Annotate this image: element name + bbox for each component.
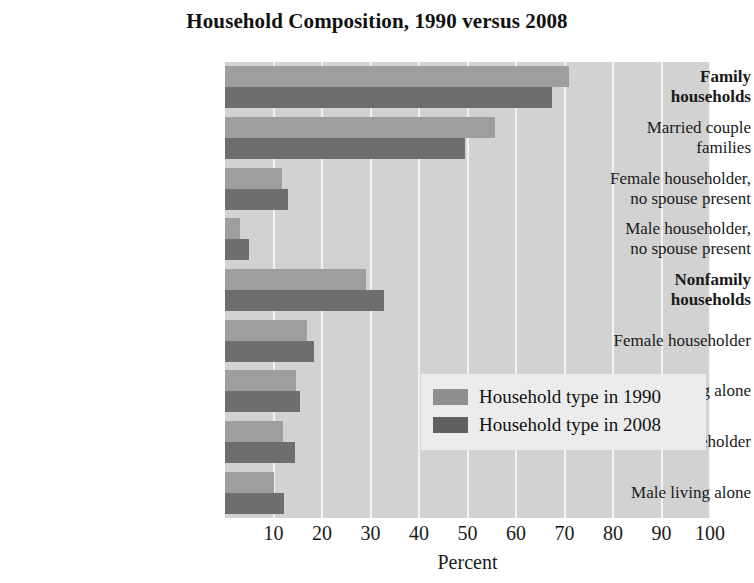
bar-1990-3 <box>225 218 240 239</box>
bar-1990-6 <box>225 370 296 391</box>
category-label-line: Female householder, <box>532 169 751 189</box>
chart-title: Household Composition, 1990 versus 2008 <box>0 9 754 34</box>
x-tick-label-60: 60 <box>506 522 526 545</box>
category-label-line: Male householder, <box>532 219 751 239</box>
category-label-5: Female householder <box>532 331 754 351</box>
x-tick-label-10: 10 <box>264 522 284 545</box>
x-tick-label-70: 70 <box>555 522 575 545</box>
category-label-8: Male living alone <box>532 483 754 503</box>
bar-2008-4 <box>225 290 384 311</box>
bar-2008-3 <box>225 239 249 260</box>
legend-label-1: Household type in 2008 <box>479 414 661 436</box>
x-tick-label-90: 90 <box>652 522 672 545</box>
bar-1990-7 <box>225 421 283 442</box>
bar-1990-5 <box>225 320 307 341</box>
x-tick-label-20: 20 <box>312 522 332 545</box>
bar-2008-0 <box>225 87 552 108</box>
bar-1990-1 <box>225 117 495 138</box>
category-label-line: Nonfamily <box>532 270 751 290</box>
x-tick-label-80: 80 <box>603 522 623 545</box>
legend-label-0: Household type in 1990 <box>479 386 661 408</box>
category-label-1: Married couplefamilies <box>532 118 754 158</box>
category-label-line: households <box>532 290 751 310</box>
category-label-3: Male householder,no spouse present <box>532 219 754 259</box>
category-label-line: Family <box>532 67 751 87</box>
bar-1990-0 <box>225 66 569 87</box>
household-composition-chart: Household Composition, 1990 versus 2008 … <box>0 0 754 583</box>
legend-swatch-0 <box>433 389 468 405</box>
legend-item-0: Household type in 1990 <box>433 383 706 411</box>
category-label-0: Familyhouseholds <box>532 67 754 107</box>
category-label-line: Married couple <box>532 118 751 138</box>
x-tick-label-50: 50 <box>458 522 478 545</box>
x-tick-label-40: 40 <box>409 522 429 545</box>
bar-2008-5 <box>225 341 314 362</box>
bar-2008-2 <box>225 189 288 210</box>
category-label-4: Nonfamilyhouseholds <box>532 270 754 310</box>
legend-swatch-1 <box>433 417 468 433</box>
bar-2008-7 <box>225 442 295 463</box>
chart-legend: Household type in 1990Household type in … <box>421 374 706 450</box>
category-label-line: households <box>532 87 751 107</box>
bar-2008-6 <box>225 391 300 412</box>
category-label-line: families <box>532 138 751 158</box>
legend-item-1: Household type in 2008 <box>433 411 706 439</box>
bar-1990-2 <box>225 168 282 189</box>
bar-1990-8 <box>225 472 274 493</box>
category-label-line: no spouse present <box>532 189 751 209</box>
category-label-line: no spouse present <box>532 239 751 259</box>
bar-1990-4 <box>225 269 366 290</box>
x-tick-label-30: 30 <box>361 522 381 545</box>
category-label-line: Male living alone <box>532 483 751 503</box>
category-label-line: Female householder <box>532 331 751 351</box>
bar-2008-1 <box>225 138 465 159</box>
x-axis-title: Percent <box>225 551 710 574</box>
x-tick-label-100: 100 <box>695 522 725 545</box>
bar-2008-8 <box>225 493 284 514</box>
category-label-2: Female householder,no spouse present <box>532 169 754 209</box>
